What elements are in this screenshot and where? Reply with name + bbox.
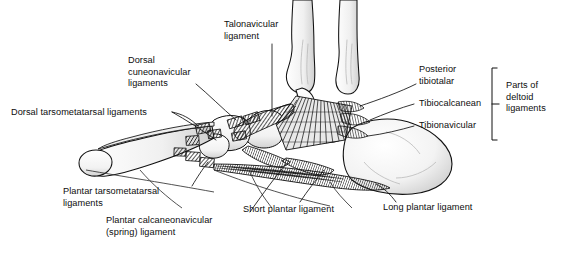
leader-posterior-tibiotalar <box>360 84 416 106</box>
bone-group <box>286 0 359 94</box>
tibia-bone <box>286 0 314 94</box>
label-long-plantar: Long plantar ligament <box>383 202 472 214</box>
fibula-bone <box>336 0 359 94</box>
label-plantar-calcaneonavicular-line2: (spring) ligament <box>106 227 175 237</box>
label-dorsal-cuneonavicular: Dorsalcuneonavicularligaments <box>128 55 191 90</box>
label-posterior-tibiotalar-line2: tibiotalar <box>419 76 454 86</box>
label-talonavicular-line2: ligament <box>224 31 259 41</box>
posterior-tibiotalar-ligament <box>338 101 364 111</box>
label-tibionavicular-line1: Tibionavicular <box>419 120 476 130</box>
label-parts-of-deltoid: Parts ofdeltoidligaments <box>506 80 546 115</box>
label-dorsal-cuneonavicular-line3: ligaments <box>128 78 168 88</box>
label-dorsal-cuneonavicular-line1: Dorsal <box>128 55 155 65</box>
label-parts-of-deltoid-line3: ligaments <box>506 103 546 113</box>
label-short-plantar-line1: Short plantar ligament <box>243 204 334 214</box>
label-tibiocalcanean: Tibiocalcanean <box>419 98 481 110</box>
label-plantar-tarsometatarsal-line2: ligaments <box>63 198 103 208</box>
tibiocalcanean-ligament <box>340 113 370 125</box>
leader-dorsal-cuneonavicular <box>196 84 236 120</box>
ankle-ligament-diagram <box>0 0 561 255</box>
label-plantar-tarsometatarsal-line1: Plantar tarsometatarsal <box>63 186 159 196</box>
label-dorsal-cuneonavicular-line2: cuneonavicular <box>128 67 191 77</box>
metatarsal-head <box>79 150 112 176</box>
label-tibionavicular: Tibionavicular <box>419 120 476 132</box>
label-dorsal-tarsometatarsal-line1: Dorsal tarsometatarsal ligaments <box>11 107 147 117</box>
label-plantar-calcaneonavicular: Plantar calcaneonavicular(spring) ligame… <box>106 215 212 238</box>
label-posterior-tibiotalar-line1: Posterior <box>419 64 456 74</box>
deltoid-parts-bracket <box>492 68 499 140</box>
label-talonavicular: Talonavicularligament <box>224 19 278 42</box>
label-short-plantar: Short plantar ligament <box>243 204 334 216</box>
label-long-plantar-line1: Long plantar ligament <box>383 202 472 212</box>
label-posterior-tibiotalar: Posteriortibiotalar <box>419 64 456 87</box>
label-plantar-tarsometatarsal: Plantar tarsometatarsalligaments <box>63 186 159 209</box>
label-parts-of-deltoid-line1: Parts of <box>506 80 538 90</box>
label-dorsal-tarsometatarsal: Dorsal tarsometatarsal ligaments <box>11 107 147 119</box>
label-talonavicular-line1: Talonavicular <box>224 19 278 29</box>
plantar-calcaneonavicular-ligament <box>242 146 290 167</box>
label-plantar-calcaneonavicular-line1: Plantar calcaneonavicular <box>106 215 212 225</box>
label-tibiocalcanean-line1: Tibiocalcanean <box>419 98 481 108</box>
label-parts-of-deltoid-line2: deltoid <box>506 92 533 102</box>
leader-tibiocalcanean <box>370 104 414 120</box>
